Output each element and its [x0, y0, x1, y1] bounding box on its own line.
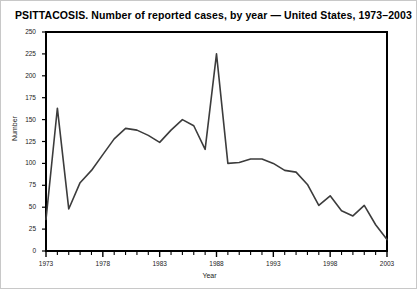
- y-axis-label: Number: [11, 99, 18, 159]
- x-tick-label: 1998: [310, 260, 350, 267]
- line-chart-svg: [1, 1, 417, 289]
- y-tick-label: 175: [8, 94, 36, 101]
- y-tick-label: 100: [8, 159, 36, 166]
- x-axis-label: Year: [1, 272, 417, 279]
- chart-figure: PSITTACOSIS. Number of reported cases, b…: [0, 0, 417, 289]
- y-tick-label: 250: [8, 28, 36, 35]
- data-series-line: [46, 54, 387, 240]
- x-tick-label: 1993: [253, 260, 293, 267]
- x-tick-label: 1988: [197, 260, 237, 267]
- plot-area: Number Year 0255075100125150175200225250…: [1, 1, 417, 289]
- x-tick-label: 2003: [367, 260, 407, 267]
- y-tick-label: 75: [8, 181, 36, 188]
- y-tick-label: 225: [8, 50, 36, 57]
- x-tick-label: 1978: [83, 260, 123, 267]
- y-tick-label: 0: [8, 247, 36, 254]
- y-tick-label: 25: [8, 225, 36, 232]
- y-tick-label: 150: [8, 116, 36, 123]
- plot-border: [46, 32, 387, 251]
- x-tick-label: 1973: [26, 260, 66, 267]
- x-tick-label: 1983: [140, 260, 180, 267]
- y-tick-label: 50: [8, 203, 36, 210]
- y-tick-label: 200: [8, 72, 36, 79]
- y-tick-label: 125: [8, 138, 36, 145]
